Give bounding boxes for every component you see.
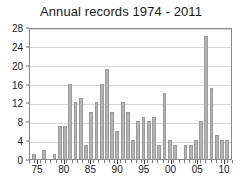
bar [220,140,224,159]
bar [95,102,99,159]
y-axis-tick-label: 0 [17,155,23,166]
bar [157,145,161,159]
x-axis-minor-tick [173,160,174,163]
y-axis-tick-label: 4 [17,136,23,147]
x-axis-minor-tick [61,160,62,163]
y-axis-tick-label: 16 [12,79,23,90]
x-axis-tick-label: 95 [138,164,149,175]
x-axis-minor-tick [109,160,110,163]
bar [105,69,109,159]
x-axis-minor-tick [216,160,217,163]
x-axis-minor-tick [232,160,233,163]
x-axis-minor-tick [221,160,222,163]
x-axis-minor-tick [184,160,185,163]
bar [110,112,114,159]
x-axis-tick-label: 00 [165,164,176,175]
x-axis-minor-tick [88,160,89,163]
x-axis-minor-tick [82,160,83,163]
x-axis-minor-tick [77,160,78,163]
x-axis-minor-tick [34,160,35,163]
x-axis-tick-label: 75 [31,164,42,175]
x-axis-minor-tick [40,160,41,163]
x-axis-minor-tick [114,160,115,163]
y-axis-tick-label: 28 [12,23,23,34]
bar [32,154,36,159]
x-axis-minor-tick [98,160,99,163]
bar [100,84,104,159]
bar [225,140,229,159]
bar [42,150,46,159]
x-axis-minor-tick [45,160,46,163]
bar [210,88,214,159]
bar-slot [225,29,230,159]
chart-title: Annual records 1974 - 2011 [0,4,242,19]
plot-area [29,28,232,160]
bar [184,145,188,159]
x-axis-minor-tick [29,160,30,163]
x-axis: 7580859095000510 [29,164,232,180]
x-axis-minor-tick [157,160,158,163]
x-axis-tick-label: 80 [58,164,69,175]
bar [115,131,119,159]
x-axis-minor-tick [136,160,137,163]
y-axis: 0481216202428 [0,28,26,160]
bar [163,93,167,159]
x-axis-minor-tick [66,160,67,163]
bar [68,84,72,159]
bar [215,135,219,159]
bar [199,121,203,159]
bar [168,140,172,159]
x-axis-minor-tick [211,160,212,163]
x-axis-minor-tick [56,160,57,163]
x-axis-minor-tick [152,160,153,163]
x-axis-tick-label: 10 [218,164,229,175]
bar [194,140,198,159]
bar [63,126,67,159]
x-axis-minor-tick [227,160,228,163]
x-axis-minor-tick [120,160,121,163]
x-axis-tick-label: 05 [192,164,203,175]
bar-chart-figure: Annual records 1974 - 2011 0481216202428… [0,0,242,183]
bar [152,117,156,159]
bar [58,126,62,159]
bar [131,140,135,159]
x-axis-minor-tick [141,160,142,163]
bar-series [30,29,231,159]
x-axis-minor-tick [205,160,206,163]
x-axis-minor-tick [72,160,73,163]
x-axis-minor-tick [147,160,148,163]
bar [189,145,193,159]
bar [121,102,125,159]
y-axis-tick-label: 12 [12,98,23,109]
bar [89,112,93,159]
bar [84,145,88,159]
x-axis-minor-tick [104,160,105,163]
y-axis-tick-label: 20 [12,60,23,71]
x-axis-tick-label: 85 [85,164,96,175]
x-axis-minor-tick [131,160,132,163]
bar [126,112,130,159]
x-axis-tick-label: 90 [112,164,123,175]
bar [147,121,151,159]
bar [74,102,78,159]
x-axis-minor-tick [200,160,201,163]
x-axis-minor-tick [93,160,94,163]
bar [53,154,57,159]
y-axis-tick-label: 24 [12,41,23,52]
x-axis-minor-tick [125,160,126,163]
x-axis-minor-tick [163,160,164,163]
x-axis-minor-tick [168,160,169,163]
x-axis-minor-tick [195,160,196,163]
bar [136,121,140,159]
bar [142,117,146,159]
x-axis-minor-tick [179,160,180,163]
x-axis-minor-tick [50,160,51,163]
bar [204,36,208,159]
x-axis-minor-tick [189,160,190,163]
y-axis-tick-label: 8 [17,117,23,128]
bar [79,98,83,159]
bar [173,145,177,159]
